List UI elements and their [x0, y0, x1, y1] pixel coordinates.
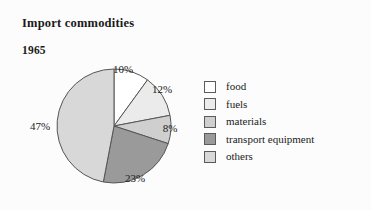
- legend-item[interactable]: materials: [204, 113, 364, 131]
- legend-item-label: transport equipment: [226, 134, 314, 145]
- pie-slice-value-label: 47%: [30, 120, 50, 132]
- pie-chart-figure: Import commodities 1965 10%12%8%23%47% f…: [0, 0, 371, 210]
- legend-item-label: fuels: [226, 99, 247, 110]
- pie-svg: [0, 0, 200, 210]
- legend-item[interactable]: others: [204, 148, 364, 166]
- legend-item[interactable]: fuels: [204, 96, 364, 114]
- pie-slice[interactable]: [57, 69, 114, 182]
- pie-slice-value-label: 8%: [163, 122, 178, 134]
- legend-swatch-icon: [204, 98, 216, 110]
- legend-item[interactable]: food: [204, 78, 364, 96]
- legend-swatch-icon: [204, 81, 216, 93]
- legend-swatch-icon: [204, 133, 216, 145]
- legend-swatch-icon: [204, 151, 216, 163]
- pie-slice-value-label: 10%: [113, 63, 133, 75]
- chart-legend: foodfuelsmaterialstransport equipmentoth…: [204, 78, 364, 166]
- legend-item-label: others: [226, 151, 253, 162]
- legend-item-label: materials: [226, 116, 266, 127]
- legend-item-label: food: [226, 81, 246, 92]
- pie-plot-area: 10%12%8%23%47%: [0, 0, 200, 210]
- pie-slice-value-label: 12%: [152, 83, 172, 95]
- pie-slice-value-label: 23%: [125, 172, 145, 184]
- legend-item[interactable]: transport equipment: [204, 131, 364, 149]
- legend-swatch-icon: [204, 116, 216, 128]
